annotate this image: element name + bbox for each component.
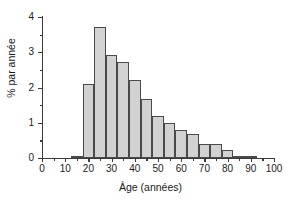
x-axis-minor-tick [146, 158, 147, 161]
x-axis-tick [88, 158, 89, 162]
histogram-bar [141, 99, 153, 158]
x-axis-tick [228, 158, 229, 162]
y-axis-tick [38, 52, 42, 53]
histogram-bar [175, 130, 187, 158]
histogram-bar [117, 62, 129, 158]
x-axis-tick-label: 70 [191, 163, 217, 175]
x-axis-minor-tick [123, 158, 124, 161]
y-axis-minor-tick [40, 105, 43, 106]
x-axis-tick-label: 80 [215, 163, 241, 175]
histogram-bar [164, 123, 176, 158]
x-axis-minor-tick [262, 158, 263, 161]
x-axis-label: Âge (années) [0, 181, 301, 193]
x-axis-tick-label: 100 [261, 163, 287, 175]
histogram-bar [94, 27, 106, 158]
x-axis-minor-tick [193, 158, 194, 161]
x-axis-tick [65, 158, 66, 162]
y-axis-tick-label: 1 [22, 117, 34, 128]
x-axis-tick-label: 60 [168, 163, 194, 175]
x-axis-tick-label: 40 [122, 163, 148, 175]
y-axis-minor-tick [40, 35, 43, 36]
x-axis-tick [274, 158, 275, 162]
x-axis-tick [158, 158, 159, 162]
y-axis-tick-label: 4 [22, 11, 34, 22]
plot-area [42, 17, 274, 158]
x-axis-tick [251, 158, 252, 162]
histogram-bar [129, 80, 141, 158]
y-axis-tick [38, 88, 42, 89]
x-axis-tick [135, 158, 136, 162]
y-axis-minor-tick [40, 70, 43, 71]
x-axis-tick [204, 158, 205, 162]
x-axis-tick [42, 158, 43, 162]
x-axis-minor-tick [77, 158, 78, 161]
histogram-bar [187, 134, 199, 158]
x-axis-minor-tick [239, 158, 240, 161]
y-axis-tick [38, 158, 42, 159]
histogram-bar [83, 84, 95, 158]
x-axis-tick-label: 10 [52, 163, 78, 175]
y-axis-tick-label: 3 [22, 46, 34, 57]
histogram-bar [222, 150, 234, 158]
y-axis-tick-label: 0 [22, 152, 34, 163]
y-axis-tick [38, 17, 42, 18]
histogram-bar [152, 116, 164, 158]
x-axis-tick [112, 158, 113, 162]
x-axis-tick-label: 30 [99, 163, 125, 175]
histogram-bar [106, 55, 118, 158]
x-axis-tick [181, 158, 182, 162]
y-axis-tick-label: 2 [22, 82, 34, 93]
histogram-bar [210, 144, 222, 158]
x-axis-tick-label: 20 [75, 163, 101, 175]
x-axis-tick-label: 50 [145, 163, 171, 175]
y-axis-tick [38, 123, 42, 124]
y-axis-label: % par année [5, 20, 17, 116]
x-axis-minor-tick [216, 158, 217, 161]
histogram-figure: 010203040506070809010001234 Âge (années)… [0, 0, 301, 208]
x-axis-minor-tick [100, 158, 101, 161]
histogram-bar [199, 144, 211, 158]
x-axis-minor-tick [54, 158, 55, 161]
x-axis-minor-tick [170, 158, 171, 161]
x-axis-tick-label: 90 [238, 163, 264, 175]
y-axis-minor-tick [40, 140, 43, 141]
x-axis-tick-label: 0 [29, 163, 55, 175]
